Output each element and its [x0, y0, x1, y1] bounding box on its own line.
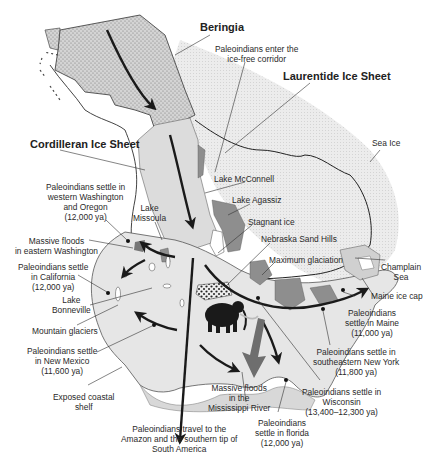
dot-marker-icon — [284, 378, 288, 382]
label-champlain-sea: ChamplainSea — [381, 262, 421, 282]
label-stagnant-ice: Stagnant ice — [248, 217, 295, 227]
label-lake-mcconnell: Lake McConnell — [214, 174, 274, 184]
label-coastal-shelf: Exposed coastalshelf — [53, 392, 114, 412]
label-lake-bonneville: LakeBonneville — [52, 295, 91, 315]
label-california: Paleoindians settlein California(12,000 … — [18, 262, 88, 292]
label-maine-ice-cap: Maine ice cap — [371, 291, 423, 301]
dot-marker-icon — [341, 288, 345, 292]
label-mountain-glaciers: Mountain glaciers — [32, 326, 98, 336]
label-cordilleran-ice-sheet: Cordilleran Ice Sheet — [30, 138, 139, 151]
dot-marker-icon — [321, 307, 325, 311]
label-wisconsin: Paleoindians settle inWisconsin(13,400–1… — [302, 387, 381, 417]
beringia-region — [45, 15, 195, 130]
label-lake-missoula: LakeMissoula — [133, 203, 166, 223]
label-mississippi-floods: Massive floodsin theMississippi River — [208, 383, 270, 413]
label-maine: Paleoindianssettle in Maine(11,000 ya) — [345, 308, 399, 338]
label-laurentide-ice-sheet: Laurentide Ice Sheet — [283, 70, 391, 83]
label-washington-oregon: Paleoindians settle inwestern Washington… — [46, 182, 125, 222]
label-ice-free-corridor: Paleoindians enter theice-free corridor — [215, 44, 298, 64]
label-lake-agassiz: Lake Agassiz — [232, 195, 281, 205]
label-south-america: Paleoindians travel to theAmazon and the… — [121, 424, 237, 454]
label-sea-ice: Sea Ice — [372, 138, 400, 148]
stagnant-ice — [210, 230, 224, 256]
dot-marker-icon — [152, 323, 156, 327]
label-new-mexico: Paleoindians settlein New Mexico(11,600 … — [27, 346, 97, 376]
label-beringia: Beringia — [200, 21, 244, 34]
label-floods-washington: Massive floodsin eastern Washington — [15, 236, 98, 256]
label-maximum-glaciation: Maximum glaciation — [269, 255, 343, 265]
label-new-york: Paleoindians settle insoutheastern New Y… — [313, 347, 399, 377]
label-florida: Paleoindianssettle in florida(12,000 ya) — [255, 418, 309, 448]
label-nebraska-sand-hills: Nebraska Sand Hills — [261, 234, 337, 244]
dot-marker-icon — [256, 296, 260, 300]
